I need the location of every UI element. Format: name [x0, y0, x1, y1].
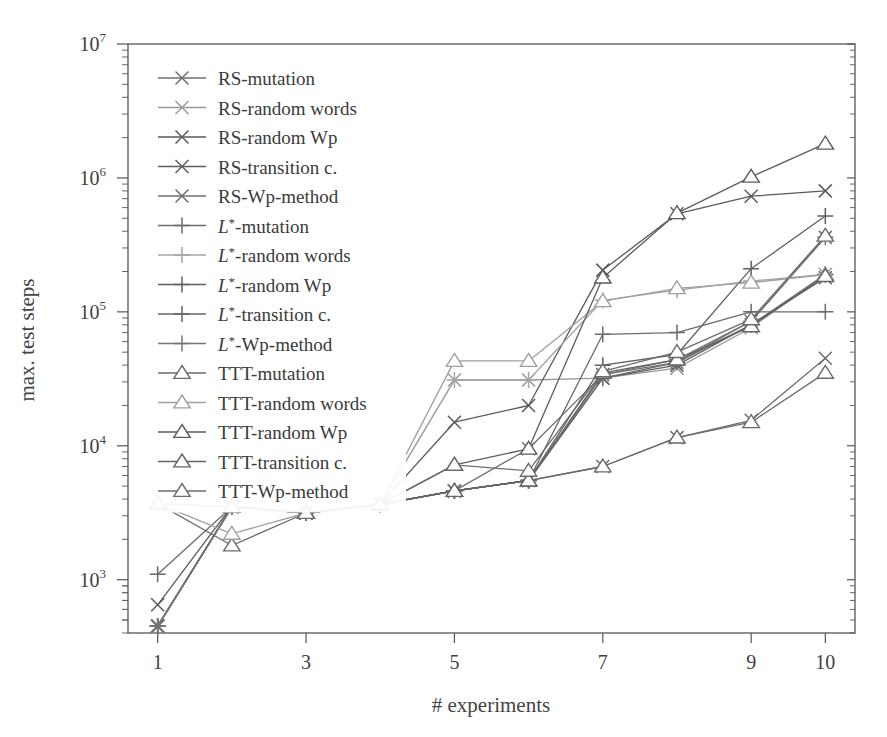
legend-label: L*-transition c.: [217, 303, 331, 325]
legend-label: L*-random Wp: [217, 274, 331, 296]
data-marker-triangle: [520, 353, 536, 366]
legend-label: RS-Wp-method: [218, 186, 339, 207]
x-axis-label: # experiments: [432, 693, 550, 717]
data-marker-triangle: [817, 228, 833, 241]
y-tick-label: 103: [80, 566, 107, 591]
data-marker-plus: [669, 325, 685, 341]
data-marker-triangle: [817, 136, 833, 149]
data-marker-x: [819, 352, 832, 365]
data-marker-triangle: [446, 353, 462, 366]
x-tick-label: 7: [598, 651, 608, 673]
legend-label: RS-random words: [218, 98, 357, 119]
legend-label: TTT-Wp-method: [218, 481, 349, 502]
legend-label: L*-random words: [217, 244, 351, 266]
legend-label: TTT-random words: [218, 393, 367, 414]
x-tick-label: 9: [746, 651, 756, 673]
chart-legend: RS-mutationRS-random wordsRS-random WpRS…: [148, 56, 406, 513]
y-axis-label: max. test steps: [15, 278, 39, 401]
legend-label: L*-Wp-method: [217, 333, 333, 355]
x-tick-label: 10: [815, 651, 835, 673]
y-tick-label: 105: [80, 298, 107, 323]
y-tick-label: 106: [80, 164, 107, 189]
legend-label: RS-random Wp: [218, 127, 337, 148]
data-marker-plus: [817, 208, 833, 224]
data-marker-x: [522, 399, 535, 412]
plot-canvas: 103104105106107 1357910 RS-mutationRS-ra…: [0, 0, 887, 737]
legend-label: TTT-random Wp: [218, 422, 347, 443]
y-tick-label: 107: [80, 30, 107, 55]
x-tick-label: 1: [153, 651, 163, 673]
data-marker-plus: [817, 304, 833, 320]
legend-label: RS-mutation: [218, 68, 316, 89]
data-marker-triangle: [743, 169, 759, 182]
legend-label: TTT-mutation: [218, 363, 325, 384]
y-tick-label: 104: [80, 432, 107, 457]
legend-label: TTT-transition c.: [218, 452, 347, 473]
data-marker-triangle: [669, 345, 685, 358]
data-marker-x: [151, 598, 164, 611]
data-marker-triangle: [817, 365, 833, 378]
data-marker-x: [448, 416, 461, 429]
legend-label: RS-transition c.: [218, 157, 337, 178]
data-marker-triangle: [224, 538, 240, 551]
x-tick-label: 3: [301, 651, 311, 673]
x-axis-ticks: 1357910: [153, 633, 836, 673]
x-tick-label: 5: [449, 651, 459, 673]
chart-figure: 103104105106107 1357910 RS-mutationRS-ra…: [0, 0, 887, 737]
data-marker-plus: [595, 326, 611, 342]
